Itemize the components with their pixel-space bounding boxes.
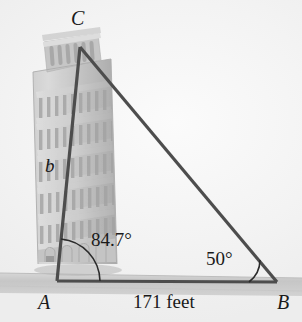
vertex-label-a: A bbox=[38, 292, 50, 312]
side-label-base-length: 171 feet bbox=[133, 292, 195, 311]
triangle-side-base bbox=[57, 281, 277, 282]
angle-label-at-b: 50° bbox=[206, 249, 233, 268]
figure-container: C A B b 84.7° 50° 171 feet bbox=[0, 0, 302, 322]
side-label-b: b bbox=[45, 156, 55, 175]
vertex-label-c: C bbox=[71, 8, 84, 28]
angle-label-at-a: 84.7° bbox=[91, 230, 132, 249]
vertex-label-b: B bbox=[277, 292, 289, 312]
